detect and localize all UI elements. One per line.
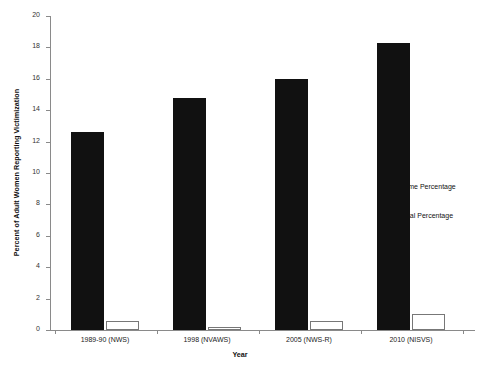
bar-annual-2	[208, 327, 241, 330]
bar-annual-4	[412, 314, 445, 330]
bar-lifetime-2	[173, 98, 206, 330]
bar-annual-1	[106, 321, 139, 330]
x-tick-mark-3	[259, 330, 260, 334]
x-axis-line	[50, 330, 475, 331]
y-tick-label: 12	[0, 137, 40, 144]
x-tick-mark-2	[157, 330, 158, 334]
y-tick-label: 14	[0, 105, 40, 112]
bar-annual-3	[310, 321, 343, 330]
y-tick-label: 2	[0, 294, 40, 301]
bar-lifetime-1	[71, 132, 104, 330]
bar-chart: Percent of Adult Women Reporting Victimi…	[0, 0, 480, 367]
x-tick-label-2: 1998 (NVAWS)	[157, 336, 257, 343]
x-tick-label-4: 2010 (NISVS)	[361, 336, 461, 343]
y-tick-label: 20	[0, 11, 40, 18]
x-tick-mark-1	[55, 330, 56, 334]
y-tick-label: 6	[0, 231, 40, 238]
y-tick-label: 4	[0, 262, 40, 269]
y-tick-mark	[46, 330, 50, 331]
x-tick-label-1: 1989-90 (NWS)	[55, 336, 155, 343]
x-axis-title: Year	[0, 350, 480, 359]
bar-lifetime-4	[377, 43, 410, 330]
bar-lifetime-3	[275, 79, 308, 330]
y-tick-label: 0	[0, 325, 40, 332]
y-tick-label: 16	[0, 74, 40, 81]
x-tick-mark-5	[463, 330, 464, 334]
y-tick-label: 8	[0, 199, 40, 206]
y-tick-label: 10	[0, 168, 40, 175]
x-tick-label-3: 2005 (NWS-R)	[259, 336, 359, 343]
x-tick-mark-4	[361, 330, 362, 334]
y-tick-label: 18	[0, 42, 40, 49]
